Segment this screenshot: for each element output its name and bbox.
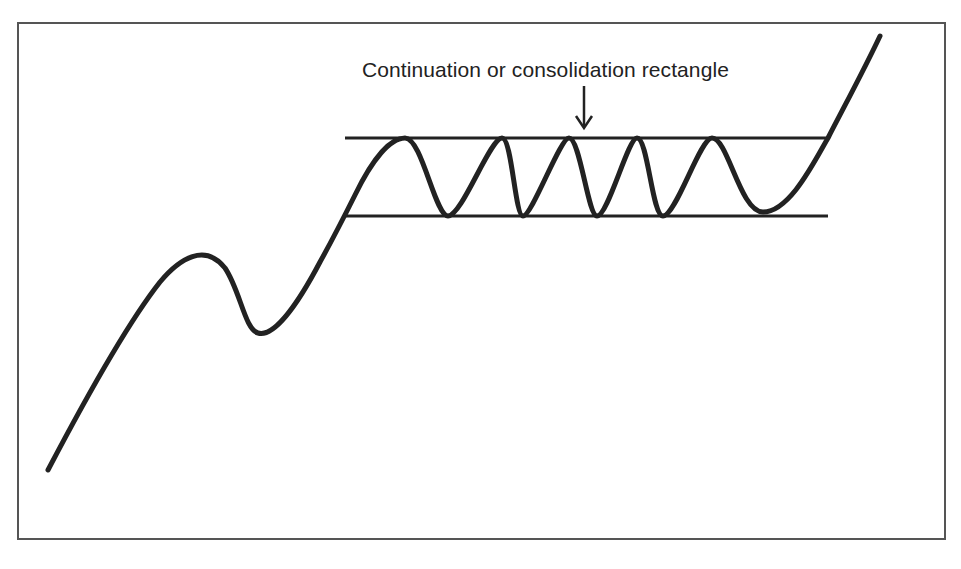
price-curve <box>48 36 880 470</box>
arrow-down-icon <box>576 86 592 128</box>
pattern-label: Continuation or consolidation rectangle <box>362 58 729 82</box>
rectangle-pattern-diagram <box>0 0 961 569</box>
